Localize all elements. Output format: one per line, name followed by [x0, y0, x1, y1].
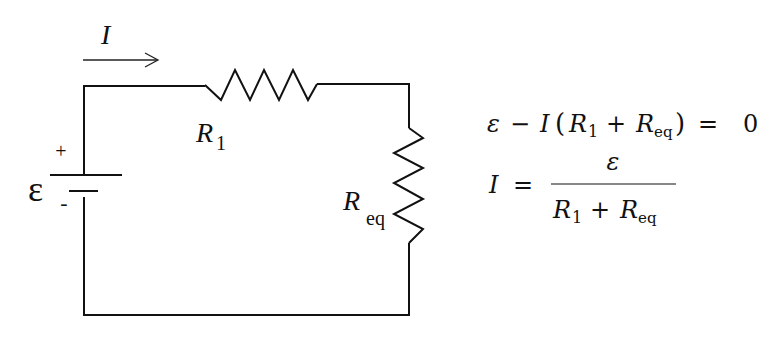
eq2-current: I	[488, 171, 499, 199]
eq1-equals: =	[698, 110, 718, 138]
circuit-diagram: I + - ε R 1 R eq ε − I ( R 1 + R eq ) = …	[0, 0, 776, 338]
r1-label-subscript: 1	[216, 132, 226, 154]
eq2-equals: =	[513, 171, 533, 199]
eq1-req-sub: eq	[654, 123, 673, 141]
battery-positive-sign: +	[55, 140, 66, 162]
eq1-plus: +	[606, 110, 626, 138]
eq2-den-r1-sub: 1	[572, 208, 582, 227]
current-arrow-icon	[83, 53, 158, 67]
eq1-r1: R	[568, 110, 587, 138]
eq2-den-req: R	[619, 196, 638, 224]
eq2-den-req-sub: eq	[638, 209, 657, 227]
req-label-symbol: R	[342, 185, 360, 216]
eq1-req: R	[635, 110, 654, 138]
equation-kirchhoff: ε − I ( R 1 + R eq ) = 0	[487, 108, 758, 141]
battery-negative-sign: -	[60, 190, 67, 215]
eq2-den-r1: R	[552, 196, 571, 224]
eq1-emf: ε	[487, 110, 500, 138]
resistor-r1	[205, 70, 317, 100]
equation-current: I = ε R 1 + R eq	[488, 148, 676, 227]
eq2-den-plus: +	[590, 196, 610, 224]
resistor-req	[394, 128, 423, 243]
battery	[50, 175, 122, 191]
eq2-numerator: ε	[607, 148, 620, 176]
eq1-lparen: (	[555, 108, 565, 138]
eq1-current: I	[539, 110, 550, 138]
emf-label: ε	[28, 169, 43, 209]
r1-label-symbol: R	[195, 117, 213, 148]
top-right-wire	[317, 84, 409, 128]
eq1-zero: 0	[743, 110, 758, 138]
eq1-r1-sub: 1	[588, 122, 598, 141]
req-label-subscript: eq	[366, 207, 385, 230]
eq1-minus: −	[510, 110, 530, 138]
bottom-wire	[84, 197, 409, 315]
eq1-rparen: )	[675, 108, 685, 138]
current-label: I	[100, 19, 112, 50]
top-left-wire	[84, 86, 205, 175]
